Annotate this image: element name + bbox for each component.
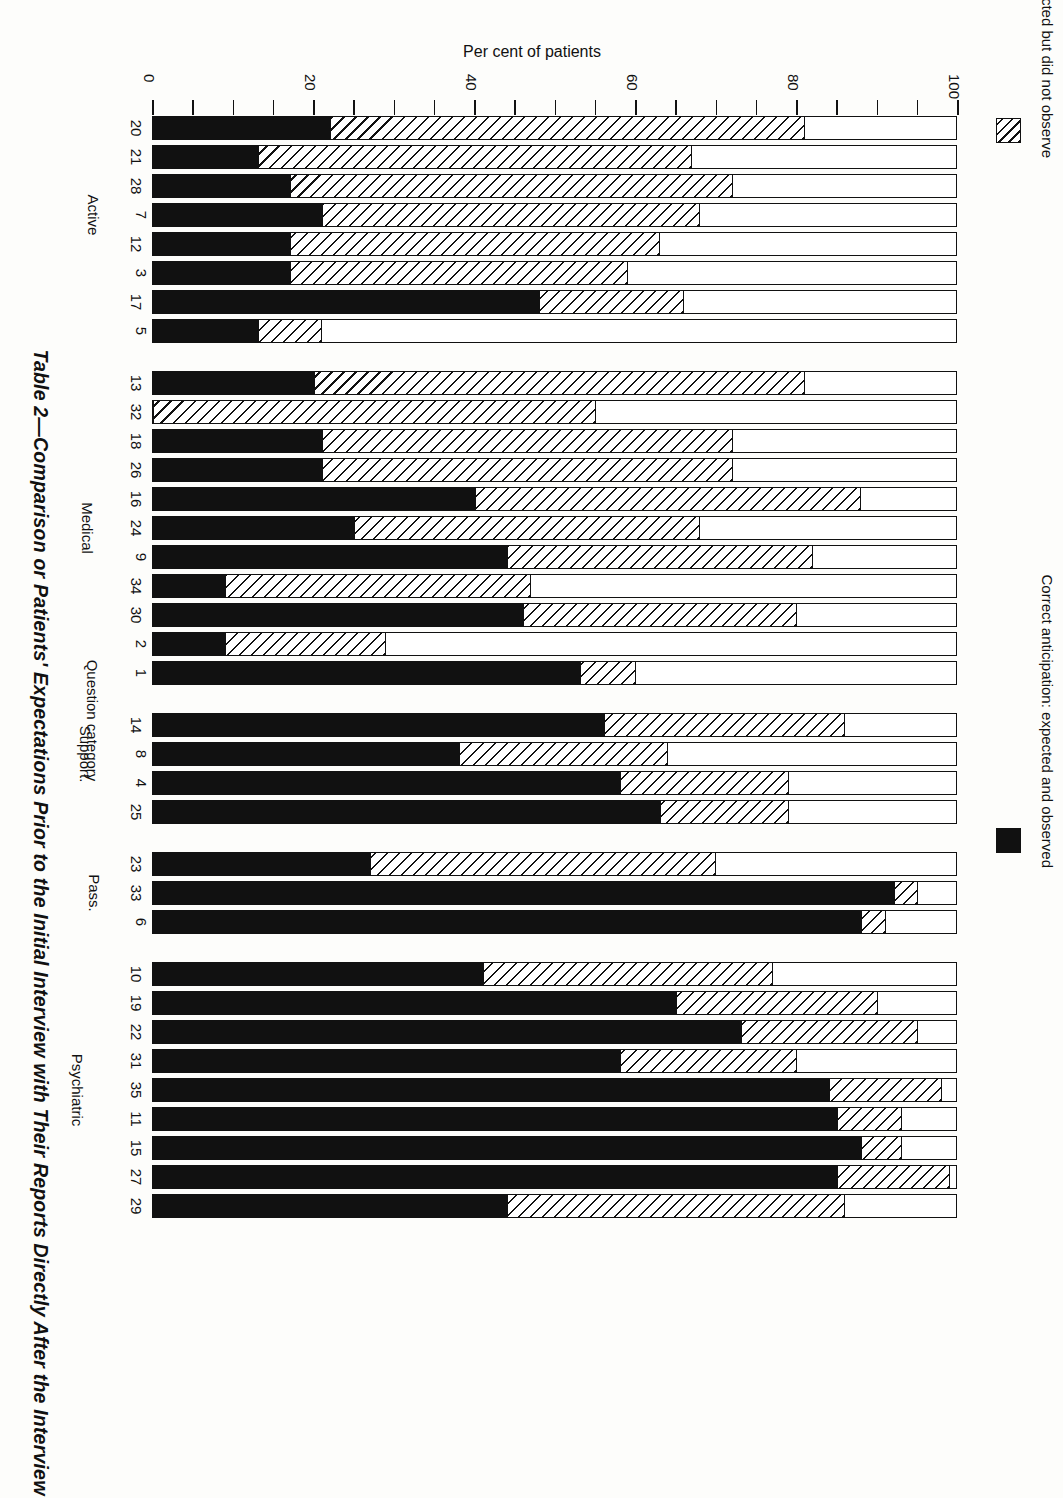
axis-tick (756, 100, 758, 115)
bar-label: 20 (128, 120, 145, 137)
axis-tick (716, 100, 718, 115)
bar-row: 18 (152, 429, 957, 453)
stacked-bar (152, 713, 957, 737)
axis-tick (836, 100, 838, 115)
bar-row: 30 (152, 603, 957, 627)
stacked-bar (152, 881, 957, 905)
bar-row: 14 (152, 713, 957, 737)
segment-incorrect-anticipation (620, 1050, 797, 1072)
axis-tick (796, 100, 798, 115)
bar-label: 27 (128, 1169, 145, 1186)
stacked-bar (152, 145, 957, 169)
segment-correct-anticipation (153, 1021, 741, 1043)
stacked-bar (152, 1107, 957, 1131)
bar-row: 33Pass. (152, 881, 957, 905)
axis-tick (555, 100, 557, 115)
stacked-bar (152, 400, 957, 424)
axis-tick (313, 100, 315, 115)
bar-label: 21 (128, 149, 145, 166)
bar-label: 16 (128, 491, 145, 508)
stacked-bar (152, 603, 957, 627)
stacked-bar (152, 203, 957, 227)
segment-incorrect-anticipation (290, 262, 628, 284)
bar-label: 34 (128, 578, 145, 595)
bar-label: 35 (128, 1082, 145, 1099)
segment-incorrect-anticipation (225, 575, 531, 597)
axis-tick (675, 100, 677, 115)
axis-tick (233, 100, 235, 115)
segment-incorrect-anticipation (354, 517, 700, 539)
stacked-bar (152, 232, 957, 256)
bar-row: 23 (152, 852, 957, 876)
stacked-bar (152, 429, 957, 453)
bar-group: 1019223135Psychiatric11152729 (152, 962, 957, 1218)
axis-tick (957, 100, 959, 115)
stacked-bar (152, 574, 957, 598)
bar-row: 16 (152, 487, 957, 511)
bar-row: 32 (152, 400, 957, 424)
segment-incorrect-anticipation (741, 1021, 918, 1043)
bar-row: 35Psychiatric (152, 1078, 957, 1102)
bar-group: 133218261624Medical9343021 (152, 371, 957, 685)
bar-label: 33 (128, 885, 145, 902)
bar-row: 27 (152, 1165, 957, 1189)
bar-label: 12 (128, 236, 145, 253)
segment-incorrect-anticipation (837, 1166, 950, 1188)
bar-label: 1 (132, 669, 149, 677)
stacked-bar (152, 319, 957, 343)
axis-tick (273, 100, 275, 115)
value-axis-scale: 020406080100 (152, 78, 957, 118)
bar-row: 5 (152, 319, 957, 343)
stacked-bar (152, 661, 957, 685)
segment-correct-anticipation (153, 233, 290, 255)
segment-incorrect-anticipation (290, 233, 660, 255)
stacked-bar (152, 632, 957, 656)
segment-incorrect-anticipation (322, 204, 700, 226)
segment-correct-anticipation (153, 1079, 829, 1101)
axis-tick-label: 20 (302, 74, 319, 91)
axis-tick-label: 0 (141, 74, 158, 82)
segment-incorrect-anticipation (322, 459, 733, 481)
segment-incorrect-anticipation (483, 963, 773, 985)
bar-group-label: Support. (77, 726, 94, 783)
bar-row: 4 (152, 771, 957, 795)
stacked-bar (152, 487, 957, 511)
axis-tick-label: 40 (463, 74, 480, 91)
axis-tick-label: 60 (624, 74, 641, 91)
bar-row: 8Support. (152, 742, 957, 766)
bar-label: 31 (128, 1053, 145, 1070)
stacked-bar (152, 516, 957, 540)
stacked-bar (152, 742, 957, 766)
bar-row: 1 (152, 661, 957, 685)
segment-incorrect-anticipation (604, 714, 846, 736)
bar-row: 25 (152, 800, 957, 824)
segment-correct-anticipation (153, 963, 483, 985)
axis-tick (514, 100, 516, 115)
segment-incorrect-anticipation (225, 633, 386, 655)
bar-label: 10 (128, 966, 145, 983)
bar-row: 29 (152, 1194, 957, 1218)
stacked-bar (152, 800, 957, 824)
bar-row: 12 (152, 232, 957, 256)
segment-correct-anticipation (153, 175, 290, 197)
bar-row: 17 (152, 290, 957, 314)
stacked-bar (152, 1078, 957, 1102)
bar-label: 9 (132, 553, 149, 561)
solid-black-swatch-icon (996, 828, 1021, 853)
bar-label: 7 (132, 211, 149, 219)
bar-label: 22 (128, 1024, 145, 1041)
axis-tick (917, 100, 919, 115)
segment-incorrect-anticipation (507, 1195, 845, 1217)
bar-label: 8 (132, 750, 149, 758)
bar-row: 7Active (152, 203, 957, 227)
bar-row: 3 (152, 261, 957, 285)
bar-group: 148Support.425 (152, 713, 957, 824)
segment-correct-anticipation (153, 801, 660, 823)
segment-incorrect-anticipation (314, 372, 805, 394)
segment-correct-anticipation (153, 662, 580, 684)
hatched-swatch-icon (996, 118, 1021, 143)
segment-correct-anticipation (153, 1195, 507, 1217)
segment-incorrect-anticipation (660, 801, 789, 823)
stacked-bar (152, 371, 957, 395)
bar-group-label: Psychiatric (69, 1054, 86, 1127)
